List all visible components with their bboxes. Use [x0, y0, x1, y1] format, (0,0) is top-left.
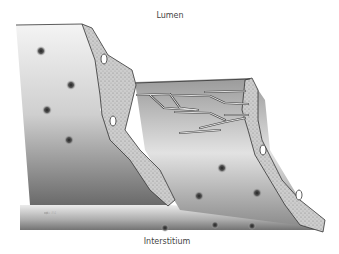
nucleus [194, 191, 204, 201]
nucleus [248, 222, 256, 230]
nucleus [64, 135, 74, 145]
tissue-illustration [0, 0, 339, 254]
nucleus [217, 163, 227, 173]
nucleus [161, 224, 169, 232]
nucleus [211, 221, 219, 229]
nucleus [252, 188, 262, 198]
junction-hole [296, 190, 302, 200]
nucleus [66, 80, 76, 90]
nucleus [36, 46, 46, 56]
nucleus [42, 105, 52, 115]
junction-hole [101, 54, 107, 64]
junction-hole [260, 145, 266, 155]
junction-hole [110, 116, 116, 126]
